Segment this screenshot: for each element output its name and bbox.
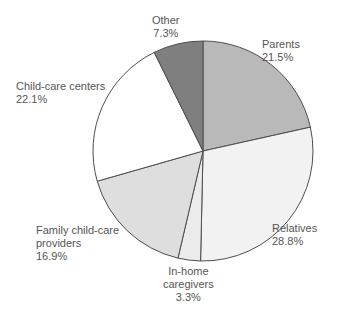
slice-label-in-home-caregivers: In-home caregivers 3.3% bbox=[163, 265, 214, 304]
slice-label-parents-name: Parents bbox=[262, 38, 300, 51]
slice-label-child-care-centers-name: Child-care centers bbox=[16, 80, 105, 93]
slice-label-in-home-caregivers-value: 3.3% bbox=[163, 291, 214, 304]
pie-chart-figure: Other 7.3% Parents 21.5% Child-care cent… bbox=[0, 0, 353, 318]
slice-label-relatives-value: 28.8% bbox=[272, 235, 317, 248]
slice-label-family-child-care-providers: Family child-care providers 16.9% bbox=[36, 224, 119, 263]
slice-label-relatives-name: Relatives bbox=[272, 222, 317, 235]
slice-label-other: Other 7.3% bbox=[152, 14, 180, 40]
slice-label-parents: Parents 21.5% bbox=[262, 38, 300, 64]
slice-label-family-child-care-providers-line2: providers bbox=[36, 237, 119, 250]
slice-label-family-child-care-providers-value: 16.9% bbox=[36, 250, 119, 263]
slice-label-other-value: 7.3% bbox=[152, 27, 180, 40]
slice-label-in-home-caregivers-line1: In-home bbox=[163, 265, 214, 278]
slice-label-relatives: Relatives 28.8% bbox=[272, 222, 317, 248]
slice-label-family-child-care-providers-line1: Family child-care bbox=[36, 224, 119, 237]
slice-label-child-care-centers-value: 22.1% bbox=[16, 93, 105, 106]
slice-label-parents-value: 21.5% bbox=[262, 51, 300, 64]
slice-label-other-name: Other bbox=[152, 14, 180, 27]
slice-label-child-care-centers: Child-care centers 22.1% bbox=[16, 80, 105, 106]
slice-label-in-home-caregivers-line2: caregivers bbox=[163, 278, 214, 291]
